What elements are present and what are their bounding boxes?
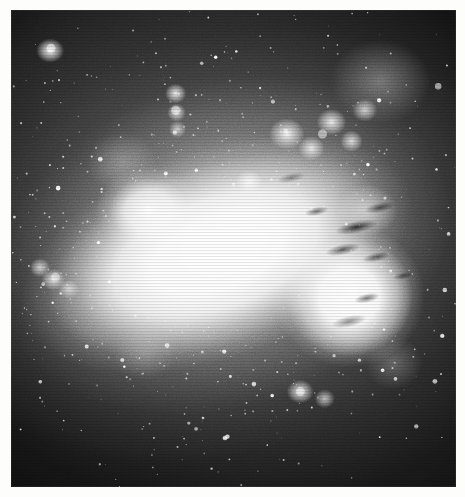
plate-edge-layer: [11, 10, 456, 487]
exposed-image-area: [11, 10, 456, 487]
photographic-plate: [0, 0, 465, 497]
